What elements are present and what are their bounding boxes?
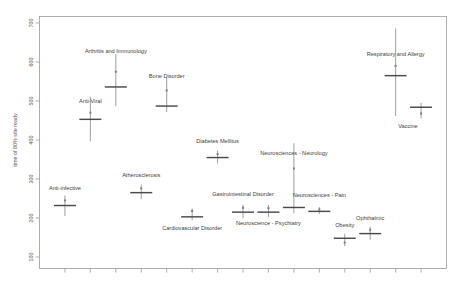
- y-tick-label: 500: [28, 97, 34, 106]
- data-point: Bone Disorder: [149, 73, 185, 112]
- data-point: Diabetes Mellitus: [196, 138, 239, 164]
- point-label: Ophthalmic: [356, 215, 384, 221]
- point-dot: [420, 112, 422, 114]
- data-point: Anti-infective: [49, 185, 81, 217]
- data-points: Anti-infectiveAnti-ViralArthritis and Im…: [49, 28, 432, 246]
- point-dot: [89, 112, 91, 114]
- data-point: Neurosciences - Neurology: [260, 143, 328, 213]
- point-dot: [267, 207, 269, 209]
- y-tick-label: 300: [28, 175, 34, 184]
- point-dot: [166, 89, 168, 91]
- point-dot: [217, 153, 219, 155]
- point-label: Bone Disorder: [149, 73, 185, 79]
- chart-container: 100200300400500600700 time of 80% site r…: [0, 0, 453, 283]
- point-label: Neurosciences - Pain: [293, 192, 346, 198]
- point-dot: [395, 65, 397, 67]
- point-label: Gastrointestinal Disorder: [212, 191, 274, 197]
- data-point: Gastrointestinal Disorder: [212, 191, 274, 218]
- point-dot: [293, 167, 295, 169]
- point-label: Cardiovascular Disorder: [162, 225, 222, 231]
- y-axis-title: time of 80% site ready: [12, 113, 18, 167]
- y-tick-label: 600: [28, 58, 34, 67]
- point-label: Anti-infective: [49, 185, 81, 191]
- point-dot: [369, 229, 371, 231]
- point-label: Respiratory and Allergy: [367, 51, 425, 57]
- data-point: Vaccine: [398, 103, 432, 129]
- point-dot: [140, 187, 142, 189]
- y-tick-label: 100: [28, 253, 34, 262]
- point-label: Neurosciences - Neurology: [260, 150, 328, 156]
- point-label: Obesity: [335, 222, 354, 228]
- point-label: Neuroscience - Psychiatry: [236, 220, 301, 226]
- scatter-plot: 100200300400500600700 time of 80% site r…: [0, 0, 453, 283]
- point-label: Anti-Viral: [79, 98, 102, 104]
- data-point: Obesity: [334, 222, 356, 246]
- y-axis: 100200300400500600700: [28, 19, 39, 262]
- data-point: Atherosclerosis: [122, 172, 160, 200]
- data-point: Neurosciences - Pain: [293, 192, 346, 214]
- y-tick-label: 200: [28, 214, 34, 223]
- point-label: Atherosclerosis: [122, 172, 160, 178]
- point-dot: [115, 71, 117, 73]
- y-axis-label: time of 80% site ready: [12, 113, 18, 167]
- point-dot: [191, 210, 193, 212]
- point-dot: [64, 199, 66, 201]
- point-dot: [242, 207, 244, 209]
- point-dot: [344, 242, 346, 244]
- y-tick-label: 400: [28, 136, 34, 145]
- data-point: Respiratory and Allergy: [367, 28, 425, 115]
- point-dot: [318, 208, 320, 210]
- point-label: Vaccine: [398, 123, 418, 129]
- y-tick-label: 700: [28, 19, 34, 28]
- point-label: Arthritis and Immunology: [85, 48, 147, 54]
- data-point: Anti-Viral: [79, 97, 102, 141]
- data-point: Ophthalmic: [356, 215, 384, 240]
- point-label: Diabetes Mellitus: [196, 138, 239, 144]
- x-axis: [65, 269, 421, 273]
- data-point: Cardiovascular Disorder: [162, 209, 222, 231]
